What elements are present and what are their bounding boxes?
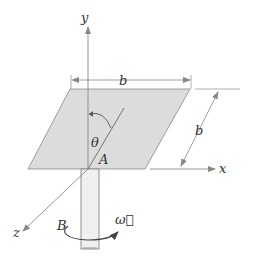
shaft	[81, 169, 99, 249]
x-axis-label: x	[219, 161, 227, 176]
diagram-canvas: y x z b b θ A B ω⃗	[0, 0, 253, 265]
z-axis	[23, 169, 88, 231]
side-dimension-label: b	[195, 123, 203, 138]
y-axis-label: y	[80, 10, 89, 25]
mechanics-diagram: y x z b b θ A B ω⃗	[0, 0, 253, 265]
top-dimension-label: b	[119, 73, 127, 88]
omega-label: ω⃗	[115, 212, 134, 227]
point-a-label: A	[98, 152, 108, 167]
angle-label: θ	[91, 135, 99, 150]
square-plate	[28, 89, 190, 169]
point-b-label: B	[56, 218, 67, 233]
z-axis-label: z	[12, 225, 20, 240]
